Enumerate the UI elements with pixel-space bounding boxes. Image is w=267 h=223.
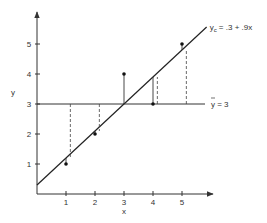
x-tick-label: 4 [151, 198, 156, 207]
y-axis-label: y [11, 88, 15, 97]
y-tick-label: 4 [27, 70, 32, 79]
mean-line-label: y = 3 [211, 100, 229, 109]
data-point [122, 72, 126, 76]
data-point [93, 132, 97, 136]
x-tick-label: 1 [64, 198, 69, 207]
y-tick-label: 3 [27, 100, 32, 109]
x-tick-label: 3 [122, 198, 127, 207]
data-point [151, 102, 155, 106]
x-axis-label: x [122, 207, 126, 216]
x-tick-label: 5 [180, 198, 185, 207]
y-tick-label: 2 [27, 130, 32, 139]
mean-label-rest: = 3 [215, 100, 229, 109]
regression-label-rest: = .3 + .9x [217, 23, 253, 32]
regression-chart: 1234512345 x y yc = .3 + .9x y = 3 [0, 0, 267, 223]
data-point [180, 42, 184, 46]
data-point [64, 162, 68, 166]
regression-line [37, 27, 207, 185]
y-tick-label: 1 [27, 160, 32, 169]
x-tick-label: 2 [93, 198, 98, 207]
y-tick-label: 5 [27, 40, 32, 49]
regression-equation-label: yc = .3 + .9x [210, 23, 253, 33]
